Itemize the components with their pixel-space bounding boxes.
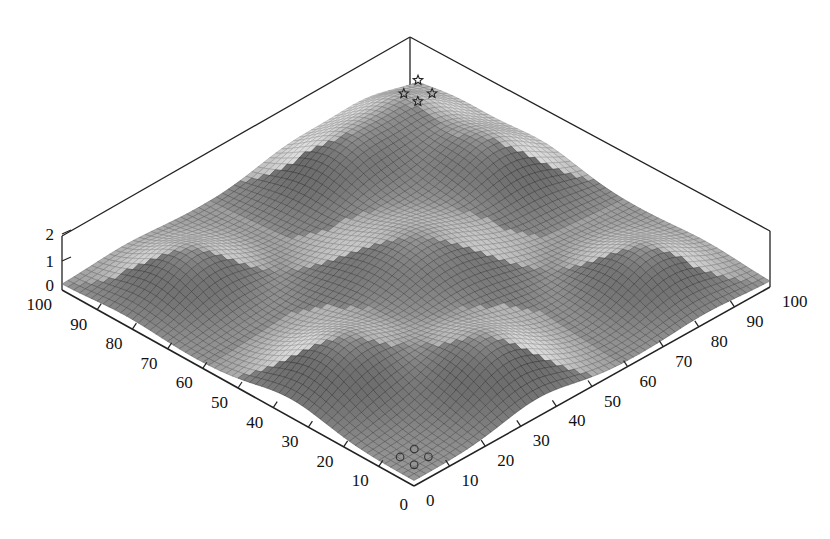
x-tick-label: 10 bbox=[462, 471, 479, 490]
y-tick-label: 40 bbox=[246, 413, 263, 432]
x-tick-label: 30 bbox=[533, 431, 550, 450]
z-tick-label: 1 bbox=[46, 252, 55, 271]
z-tick-label: 0 bbox=[46, 276, 55, 295]
y-tick-label: 30 bbox=[281, 432, 298, 451]
x-tick-label: 50 bbox=[604, 392, 621, 411]
y-tick-label: 0 bbox=[400, 495, 409, 514]
y-tick-label: 20 bbox=[317, 452, 334, 471]
x-tick-label: 40 bbox=[568, 411, 585, 430]
y-tick-label: 90 bbox=[70, 315, 87, 334]
surface-mesh bbox=[62, 82, 770, 481]
y-tick-label: 80 bbox=[105, 334, 122, 353]
x-tick-label: 100 bbox=[782, 292, 808, 311]
y-tick-label: 10 bbox=[352, 471, 369, 490]
z-tick-label: 2 bbox=[46, 225, 55, 244]
x-tick-label: 0 bbox=[426, 491, 435, 510]
x-tick-label: 60 bbox=[640, 372, 657, 391]
surface-plot: 0102030405060708090100 01020304050607080… bbox=[0, 0, 830, 539]
y-tick-label: 100 bbox=[27, 295, 53, 314]
y-tick-label: 50 bbox=[211, 393, 228, 412]
x-tick-label: 70 bbox=[675, 352, 692, 371]
y-tick-label: 60 bbox=[176, 373, 193, 392]
x-tick-label: 90 bbox=[746, 312, 763, 331]
x-tick-label: 80 bbox=[711, 332, 728, 351]
x-tick-label: 20 bbox=[497, 451, 514, 470]
y-tick-label: 70 bbox=[141, 354, 158, 373]
